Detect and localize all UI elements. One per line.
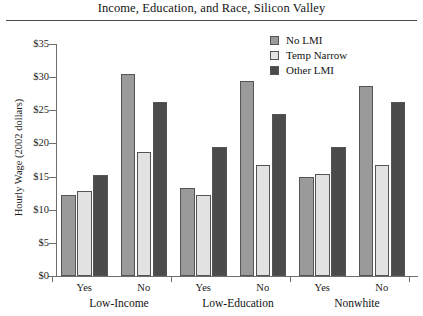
x-axis-group-label: Nonwhite: [297, 297, 417, 309]
bar-temp-narrow-3: [256, 165, 271, 276]
y-axis-tick-label: $0: [0, 271, 49, 281]
bar-no-lmi-3: [240, 81, 255, 276]
bar-temp-narrow-1: [137, 152, 152, 276]
x-axis-separator-tick: [409, 276, 410, 282]
chart-legend: No LMITemp NarrowOther LMI: [270, 33, 347, 78]
bar-no-lmi-2: [180, 188, 195, 276]
y-axis-tick-label: $30: [0, 72, 49, 82]
legend-label-text: Other LMI: [286, 65, 334, 76]
bar-other-lmi-5: [391, 102, 406, 276]
y-axis-tick-mark: [49, 243, 56, 244]
y-axis-tick-label: $15: [0, 172, 49, 182]
x-axis-category-label: No: [114, 282, 174, 293]
x-axis-group-label: Low-Education: [178, 297, 298, 309]
bar-other-lmi-0: [93, 175, 108, 276]
legend-swatch-temp-narrow: [270, 51, 279, 60]
y-axis-tick-label: $20: [0, 138, 49, 148]
bar-no-lmi-1: [121, 74, 136, 276]
x-axis-category-label: No: [352, 282, 412, 293]
y-axis-tick-label-text: $15: [5, 172, 49, 182]
y-axis-tick-mark: [49, 143, 56, 144]
y-axis-tick-label: $35: [0, 39, 49, 49]
x-axis-separator-tick: [52, 276, 53, 282]
chart-title: Income, Education, and Race, Silicon Val…: [0, 1, 423, 16]
y-axis-tick-label-text: $30: [5, 72, 49, 82]
legend-item-temp-narrow[interactable]: Temp Narrow: [270, 48, 347, 63]
y-axis-tick-label: $5: [0, 238, 49, 248]
y-axis-tick-label: $10: [0, 205, 49, 215]
bar-no-lmi-0: [61, 195, 76, 276]
title-divider: [6, 20, 417, 21]
y-axis-tick-mark: [49, 77, 56, 78]
bar-other-lmi-2: [212, 147, 227, 276]
bar-temp-narrow-4: [315, 174, 330, 276]
bar-temp-narrow-0: [77, 191, 92, 277]
x-axis-category-label: Yes: [292, 282, 352, 293]
legend-item-no-lmi[interactable]: No LMI: [270, 33, 347, 48]
bar-temp-narrow-5: [375, 165, 390, 276]
x-axis-line: [48, 276, 418, 277]
legend-item-other-lmi[interactable]: Other LMI: [270, 63, 347, 78]
x-axis-category-label: Yes: [173, 282, 233, 293]
bar-other-lmi-1: [153, 102, 168, 276]
bar-temp-narrow-2: [196, 195, 211, 276]
y-axis-tick-label-text: $35: [5, 39, 49, 49]
x-axis-category-label: No: [233, 282, 293, 293]
y-axis-tick-label-text: $5: [5, 238, 49, 248]
bar-other-lmi-3: [272, 114, 287, 276]
y-axis-tick-mark: [49, 177, 56, 178]
x-axis-category-label: Yes: [54, 282, 114, 293]
y-axis-tick-mark: [49, 44, 56, 45]
x-axis-separator-tick: [171, 276, 172, 282]
legend-swatch-no-lmi: [270, 36, 279, 45]
x-axis-separator-tick: [290, 276, 291, 282]
bar-no-lmi-4: [299, 177, 314, 276]
y-axis-tick-mark: [49, 110, 56, 111]
y-axis-tick-label-text: $10: [5, 205, 49, 215]
y-axis-tick-mark: [49, 210, 56, 211]
y-axis-tick-label-text: $25: [5, 105, 49, 115]
legend-swatch-other-lmi: [270, 66, 279, 75]
x-axis-group-label: Low-Income: [59, 297, 179, 309]
chart-figure: Income, Education, and Race, Silicon Val…: [0, 0, 423, 316]
bar-no-lmi-5: [359, 86, 374, 276]
plot-area: [57, 44, 417, 276]
y-axis-tick-label: $25: [0, 105, 49, 115]
bar-other-lmi-4: [331, 147, 346, 276]
legend-label-text: No LMI: [286, 35, 322, 46]
legend-label-text: Temp Narrow: [286, 50, 347, 61]
y-axis-tick-label-text: $0: [5, 271, 49, 281]
y-axis-tick-label-text: $20: [5, 138, 49, 148]
